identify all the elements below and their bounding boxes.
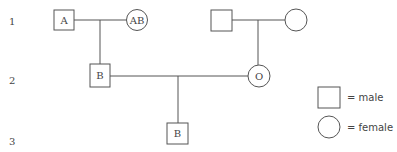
legend-male-square (318, 87, 340, 108)
female-circle (285, 9, 307, 31)
individual-gen3-male-b: B (167, 123, 188, 144)
individual-gen1-male-a: A (54, 10, 74, 30)
legend: = male = female (318, 87, 393, 138)
generation-label-3: 3 (9, 136, 15, 147)
blood-type-label: B (96, 70, 103, 81)
legend-female-circle (318, 116, 340, 138)
legend-female-label: = female (347, 122, 393, 133)
individual-gen1-female-ab: AB (127, 10, 148, 31)
blood-type-label: B (174, 128, 181, 139)
individual-gen1-male-unlabeled (211, 10, 232, 31)
male-square (211, 10, 232, 31)
generation-label-1: 1 (9, 16, 15, 27)
blood-type-label: AB (129, 15, 145, 26)
pedigree-chart: 1 2 3 A AB B O B = male (0, 0, 397, 152)
individual-gen2-female-o: O (248, 65, 270, 87)
legend-male-label: = male (347, 92, 383, 103)
individual-gen2-male-b: B (90, 64, 110, 87)
blood-type-label: A (59, 15, 68, 26)
generation-label-2: 2 (9, 75, 15, 86)
blood-type-label: O (255, 71, 263, 82)
individual-gen1-female-unlabeled (285, 9, 307, 31)
